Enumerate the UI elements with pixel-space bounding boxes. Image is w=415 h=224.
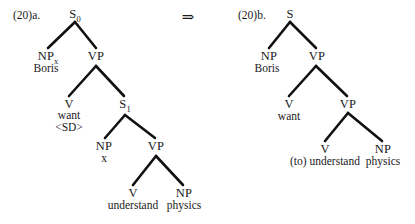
derivation-arrow-icon: ⇒ xyxy=(182,10,195,25)
node-a-vp2-label: VP xyxy=(148,139,164,153)
terminal-b-v2: (to) understand xyxy=(290,156,360,168)
edge-a-s1-vp xyxy=(125,115,155,138)
terminal-a-v1: want xyxy=(58,110,80,122)
terminal-a-subject: Boris xyxy=(34,63,59,75)
terminal-a-v1-feature: <SD> xyxy=(55,122,83,134)
node-a-embedded-s-subscript: 1 xyxy=(126,104,130,114)
edge-b-s-np xyxy=(269,22,290,48)
example-number-b: (20)b. xyxy=(238,10,266,22)
node-b-v2-label: V xyxy=(320,142,329,156)
edge-a-s0-vp xyxy=(75,22,96,48)
node-b-v1-label: V xyxy=(284,97,293,111)
terminal-a-v2: understand xyxy=(108,200,158,212)
node-a-object-np-label: NP xyxy=(176,186,192,200)
edge-b-vp2-v xyxy=(325,113,348,141)
edge-a-vp-v xyxy=(69,66,96,96)
node-b-vp1-label: VP xyxy=(309,49,325,63)
edge-a-vp-s1 xyxy=(96,66,124,96)
terminal-a-object: physics xyxy=(167,200,202,212)
example-number-a: (20)a. xyxy=(13,10,40,22)
node-b-vp1: VP xyxy=(309,50,325,65)
terminal-b-subject: Boris xyxy=(255,63,280,75)
node-b-subject-np-label: NP xyxy=(261,49,277,63)
terminal-a-embedded-np: x xyxy=(101,153,107,165)
node-a-vp2: VP xyxy=(148,140,164,155)
edge-b-vp-vp2 xyxy=(316,66,347,96)
edge-a-vp2-np xyxy=(156,156,183,185)
node-a-subject-np-label: NP xyxy=(38,49,54,63)
node-b-object-np-label: NP xyxy=(375,142,391,156)
edge-b-vp-v xyxy=(289,66,316,96)
edge-a-s1-np xyxy=(105,115,125,138)
node-a-embedded-np-label: NP xyxy=(96,139,112,153)
edge-b-s-vp xyxy=(290,22,316,48)
node-b-root-label: S xyxy=(286,7,293,21)
node-a-embedded-s: S1 xyxy=(119,98,130,113)
syntax-derivation-figure: ⇒ (20)a. S0 NPx Boris VP V want <SD> S1 … xyxy=(0,0,415,224)
terminal-b-object: physics xyxy=(366,156,401,168)
node-a-vp1: VP xyxy=(88,50,104,65)
edge-a-s0-np xyxy=(48,22,75,48)
terminal-b-v1: want xyxy=(278,111,300,123)
node-a-v2-label: V xyxy=(128,186,137,200)
edge-b-vp2-np xyxy=(348,113,382,141)
node-a-vp1-label: VP xyxy=(88,49,104,63)
edge-a-vp2-v xyxy=(133,156,156,185)
node-a-root: S0 xyxy=(69,8,80,23)
node-b-vp2: VP xyxy=(340,98,356,113)
node-a-root-subscript: 0 xyxy=(76,14,80,24)
node-b-vp2-label: VP xyxy=(340,97,356,111)
node-b-root: S xyxy=(286,8,293,23)
